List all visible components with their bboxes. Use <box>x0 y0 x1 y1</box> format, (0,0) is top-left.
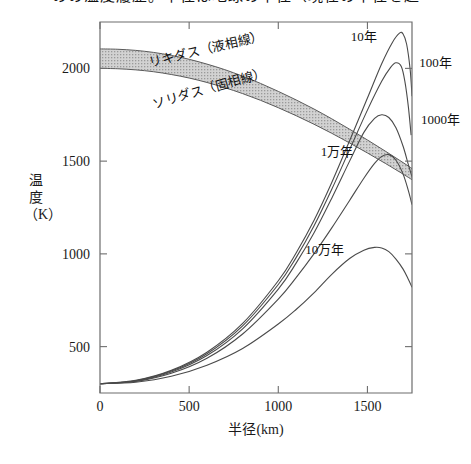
figure-container: のの温度履歴。半径は地球の半径（現在の半径を超 050010001500 500… <box>0 0 471 464</box>
x-tick-label: 500 <box>179 399 200 414</box>
y-tick-label: 2000 <box>62 61 90 76</box>
x-tick-label: 0 <box>97 399 104 414</box>
y-axis-label: 温度（K） <box>24 172 48 223</box>
y-tick-label: 1000 <box>62 247 90 262</box>
curve-label-100000y: 10万年 <box>305 242 344 257</box>
x-tick-label: 1000 <box>264 399 292 414</box>
temperature-radius-chart: 050010001500 500100015002000 リキダス（液相線）ソリ… <box>0 0 471 464</box>
y-axis-ticks <box>100 68 412 346</box>
curve-label-10y: 10年 <box>351 29 377 44</box>
x-axis-label: 半径(km) <box>228 422 284 438</box>
y-tick-label: 1500 <box>62 154 90 169</box>
x-tick-label: 1500 <box>353 399 381 414</box>
curve-label-10000y: 1万年 <box>321 144 354 159</box>
curve-3 <box>100 154 412 383</box>
truncated-caption-text: のの温度履歴。半径は地球の半径（現在の半径を超 <box>0 0 471 4</box>
y-tick-label: 500 <box>69 340 90 355</box>
y-axis-tick-labels: 500100015002000 <box>62 61 90 354</box>
curve-label-1000y: 1000年 <box>421 112 460 127</box>
curve-1 <box>100 63 411 384</box>
truncated-caption: のの温度履歴。半径は地球の半径（現在の半径を超 <box>0 0 471 11</box>
x-axis-tick-labels: 050010001500 <box>97 399 382 414</box>
curve-label-100y: 100年 <box>419 55 452 70</box>
